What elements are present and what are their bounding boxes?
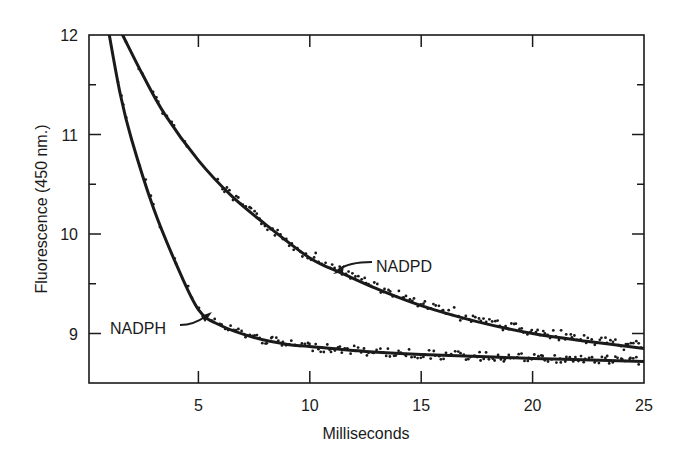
data-point <box>408 348 411 351</box>
data-point <box>520 352 523 355</box>
data-point <box>606 355 609 358</box>
data-point <box>250 207 253 210</box>
data-point <box>413 297 416 300</box>
data-point <box>253 210 256 213</box>
data-point <box>552 329 555 332</box>
data-point <box>523 360 526 363</box>
data-point <box>465 358 468 361</box>
data-point <box>614 338 617 341</box>
data-point <box>612 340 615 343</box>
data-point <box>542 330 545 333</box>
data-point <box>616 356 619 359</box>
data-point <box>474 316 477 319</box>
data-point <box>547 360 550 363</box>
data-point <box>586 337 589 340</box>
data-point <box>330 351 333 354</box>
data-point <box>637 363 640 366</box>
data-point <box>479 359 482 362</box>
y-tick-label: 11 <box>61 127 78 144</box>
y-tick-label: 10 <box>60 226 78 243</box>
data-point <box>591 356 594 359</box>
data-point <box>389 355 392 358</box>
data-point <box>515 322 518 325</box>
data-point <box>601 356 604 359</box>
data-point <box>635 356 638 359</box>
data-point <box>637 342 640 345</box>
data-point <box>385 355 388 358</box>
data-point <box>541 355 544 358</box>
data-point <box>383 288 386 291</box>
data-point <box>314 343 317 346</box>
data-point <box>340 351 343 354</box>
data-point <box>405 295 408 298</box>
data-point <box>604 336 607 339</box>
data-points <box>117 41 644 366</box>
data-point <box>485 351 488 354</box>
curve-nadph <box>109 35 644 361</box>
annotations: NADPD NADPH <box>110 258 432 337</box>
data-point <box>322 351 325 354</box>
data-point <box>413 356 416 359</box>
data-point <box>459 352 462 355</box>
data-point <box>410 356 413 359</box>
data-point <box>629 342 632 345</box>
data-point <box>229 324 232 327</box>
data-point <box>379 347 382 350</box>
data-point <box>438 304 441 307</box>
data-point <box>339 345 342 348</box>
data-point <box>357 346 360 349</box>
data-point <box>559 361 562 364</box>
data-point <box>349 352 352 355</box>
data-point <box>351 272 354 275</box>
nadph-label: NADPH <box>110 320 166 337</box>
data-point <box>478 351 481 354</box>
data-point <box>256 334 259 337</box>
fluorescence-chart: 5101520259101112 NADPD NADPH Millisecond… <box>0 0 684 456</box>
data-point <box>629 357 632 360</box>
data-point <box>311 350 314 353</box>
data-point <box>600 336 603 339</box>
data-point <box>507 354 510 357</box>
data-point <box>496 319 499 322</box>
x-tick-label: 20 <box>524 397 542 414</box>
data-point <box>376 283 379 286</box>
data-point <box>555 361 558 364</box>
data-point <box>445 351 448 354</box>
data-point <box>347 270 350 273</box>
data-point <box>447 309 450 312</box>
data-point <box>623 348 626 351</box>
data-point <box>491 320 494 323</box>
data-point <box>467 358 470 361</box>
x-tick-label: 5 <box>194 397 203 414</box>
data-point <box>319 350 322 353</box>
data-point <box>598 362 601 365</box>
data-point <box>276 229 279 232</box>
data-point <box>314 252 317 255</box>
data-point <box>635 340 638 343</box>
data-point <box>424 300 427 303</box>
x-tick-label: 10 <box>301 397 319 414</box>
data-point <box>442 358 445 361</box>
data-point <box>387 347 390 350</box>
data-point <box>493 359 496 362</box>
data-point <box>632 342 635 345</box>
data-point <box>520 327 523 330</box>
curve-nadpd <box>123 35 644 348</box>
data-point <box>533 353 536 356</box>
data-point <box>459 319 462 322</box>
data-point <box>275 336 278 339</box>
data-point <box>569 333 572 336</box>
data-point <box>434 304 437 307</box>
data-point <box>237 328 240 331</box>
data-point <box>553 354 556 357</box>
x-tick-label: 15 <box>412 397 430 414</box>
data-point <box>608 362 611 365</box>
data-point <box>213 318 216 321</box>
data-point <box>453 306 456 309</box>
data-point <box>266 228 269 231</box>
data-point <box>632 357 635 360</box>
data-point <box>255 212 258 215</box>
data-point <box>536 329 539 332</box>
data-point <box>440 358 443 361</box>
data-point <box>326 343 329 346</box>
